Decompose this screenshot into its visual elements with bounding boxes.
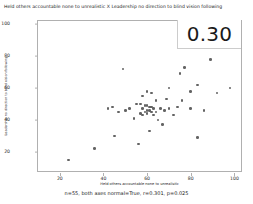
data-point bbox=[229, 87, 232, 90]
x-tick-mark bbox=[234, 173, 235, 176]
data-point bbox=[179, 72, 182, 75]
y-tick-label: 100 bbox=[0, 21, 10, 26]
data-point bbox=[141, 107, 144, 110]
data-point bbox=[189, 90, 192, 93]
data-point bbox=[152, 114, 155, 117]
data-point bbox=[196, 84, 199, 87]
data-point bbox=[124, 109, 127, 112]
x-axis-label: Held others accountable none to unrealis… bbox=[37, 182, 242, 186]
data-point bbox=[165, 98, 168, 101]
y-tick-label: 20 bbox=[0, 148, 10, 153]
data-point bbox=[148, 130, 151, 133]
x-tick-mark bbox=[103, 173, 104, 176]
data-point bbox=[209, 58, 212, 61]
data-point bbox=[196, 136, 199, 139]
data-point bbox=[216, 92, 219, 95]
data-point bbox=[107, 107, 110, 110]
data-point bbox=[141, 95, 144, 98]
x-tick-mark bbox=[60, 173, 61, 176]
data-point bbox=[159, 107, 162, 110]
data-point bbox=[137, 143, 140, 146]
correlation-annotation-box: 0.30 bbox=[177, 20, 241, 49]
data-point bbox=[113, 135, 116, 138]
data-point bbox=[168, 107, 171, 110]
correlation-value: 0.30 bbox=[187, 22, 233, 46]
y-tick-label: 40 bbox=[0, 116, 10, 121]
data-point bbox=[203, 109, 206, 112]
data-point bbox=[163, 109, 166, 112]
data-point bbox=[117, 111, 120, 114]
scatter-plot-figure: Held others accountable none to unrealis… bbox=[0, 0, 253, 204]
y-axis-label: Leadership no direction to blind vision … bbox=[4, 57, 8, 136]
x-tick-label: 80 bbox=[176, 176, 206, 181]
y-tick-mark bbox=[35, 120, 38, 121]
data-point bbox=[111, 106, 114, 109]
data-point bbox=[150, 92, 153, 95]
x-tick-label: 40 bbox=[88, 176, 118, 181]
data-point bbox=[133, 117, 136, 120]
y-tick-label: 80 bbox=[0, 53, 10, 58]
data-point bbox=[146, 90, 149, 93]
data-point bbox=[141, 114, 144, 117]
x-tick-label: 20 bbox=[45, 176, 75, 181]
y-tick-mark bbox=[35, 88, 38, 89]
data-point bbox=[146, 112, 149, 115]
x-tick-mark bbox=[147, 173, 148, 176]
y-tick-label: 60 bbox=[0, 85, 10, 90]
data-point bbox=[139, 103, 142, 106]
data-point bbox=[183, 66, 186, 69]
data-point bbox=[152, 107, 155, 110]
data-point bbox=[176, 106, 179, 109]
data-point bbox=[189, 107, 192, 110]
chart-title: Held others accountable none to unrealis… bbox=[4, 4, 250, 10]
y-tick-mark bbox=[35, 56, 38, 57]
x-tick-mark bbox=[191, 173, 192, 176]
data-point bbox=[128, 107, 131, 110]
x-tick-label: 60 bbox=[132, 176, 162, 181]
data-point bbox=[155, 99, 158, 102]
stats-caption: n=55, both axes normal=True, r=0.301, p=… bbox=[0, 190, 253, 196]
data-point bbox=[135, 103, 138, 106]
data-point bbox=[161, 123, 164, 126]
y-tick-mark bbox=[35, 24, 38, 25]
data-point bbox=[157, 119, 160, 122]
data-point bbox=[168, 87, 171, 90]
y-tick-mark bbox=[35, 151, 38, 152]
data-point bbox=[150, 111, 153, 114]
x-tick-label: 100 bbox=[219, 176, 249, 181]
data-point bbox=[122, 68, 125, 71]
data-point bbox=[155, 111, 158, 114]
data-point bbox=[181, 99, 184, 102]
data-point bbox=[67, 159, 70, 162]
data-point bbox=[172, 114, 175, 117]
data-point bbox=[93, 147, 96, 150]
